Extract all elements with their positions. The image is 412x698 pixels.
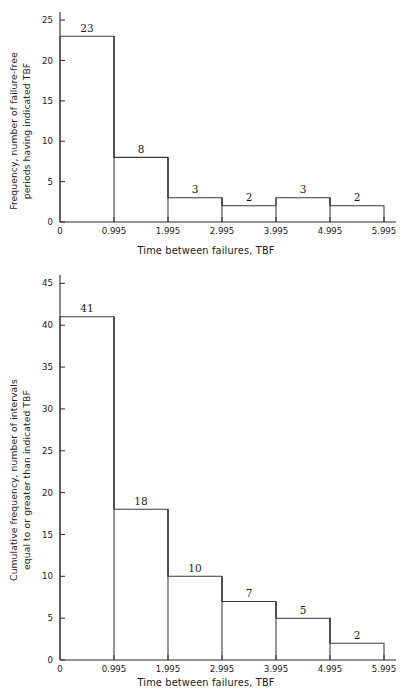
y-tick-label: 25 <box>42 446 53 456</box>
y-tick-label: 30 <box>42 404 53 414</box>
cumulative-frequency-plot-area: 05101520253035404500.9951.9952.9953.9954… <box>0 262 412 677</box>
y-tick-label: 35 <box>42 362 53 372</box>
x-tick-label: 0 <box>57 226 62 236</box>
bar-value-label: 41 <box>80 302 93 314</box>
bar-value-label: 3 <box>300 183 307 195</box>
y-tick-label: 10 <box>42 571 53 581</box>
bar-value-label: 10 <box>188 562 201 574</box>
bar-value-label: 7 <box>246 587 253 599</box>
y-tick-label: 10 <box>42 136 53 146</box>
x-tick-label: 5.995 <box>372 226 397 236</box>
x-tick-label: 0.995 <box>102 226 127 236</box>
x-tick-label: 1.995 <box>156 664 181 674</box>
x-tick-label: 1.995 <box>156 226 181 236</box>
frequency-histogram-figure: Frequency, number of failure-free period… <box>0 0 412 262</box>
bar-value-label: 8 <box>138 143 145 155</box>
x-tick-label: 3.995 <box>264 664 289 674</box>
x-tick-label: 4.995 <box>318 226 343 236</box>
chart-content: 05101520253035404500.9951.9952.9953.9954… <box>42 275 396 674</box>
x-axis-label-top: Time between failures, TBF <box>0 245 412 256</box>
y-tick-label: 0 <box>48 655 53 665</box>
bar-value-label: 2 <box>354 629 361 641</box>
x-tick-label: 5.995 <box>372 664 397 674</box>
y-tick-label: 0 <box>48 217 53 227</box>
bar-value-label: 2 <box>246 191 253 203</box>
x-tick-label: 3.995 <box>264 226 289 236</box>
y-tick-label: 25 <box>42 15 53 25</box>
y-tick-label: 20 <box>42 488 53 498</box>
y-tick-label: 15 <box>42 96 53 106</box>
x-tick-label: 4.995 <box>318 664 343 674</box>
x-tick-label: 0 <box>57 664 62 674</box>
bar-value-label: 3 <box>192 183 199 195</box>
y-tick-label: 15 <box>42 530 53 540</box>
bar-value-label: 23 <box>80 22 93 34</box>
y-tick-label: 40 <box>42 320 53 330</box>
bar-value-label: 18 <box>134 495 147 507</box>
y-tick-label: 20 <box>42 56 53 66</box>
chart-content: 051015202500.9951.9952.9953.9954.9955.99… <box>42 12 396 236</box>
x-tick-label: 0.995 <box>102 664 127 674</box>
frequency-plot-area: 051015202500.9951.9952.9953.9954.9955.99… <box>0 0 412 245</box>
y-tick-label: 5 <box>48 613 53 623</box>
cumulative-frequency-histogram-figure: Cumulative frequency, number of interval… <box>0 262 412 698</box>
bar-value-label: 2 <box>354 191 361 203</box>
bar-value-label: 5 <box>300 604 307 616</box>
x-tick-label: 2.995 <box>210 226 235 236</box>
x-tick-label: 2.995 <box>210 664 235 674</box>
histogram-outline <box>60 36 384 222</box>
y-tick-label: 45 <box>42 278 53 288</box>
y-tick-label: 5 <box>48 177 53 187</box>
x-axis-label-bottom: Time between failures, TBF <box>0 677 412 688</box>
